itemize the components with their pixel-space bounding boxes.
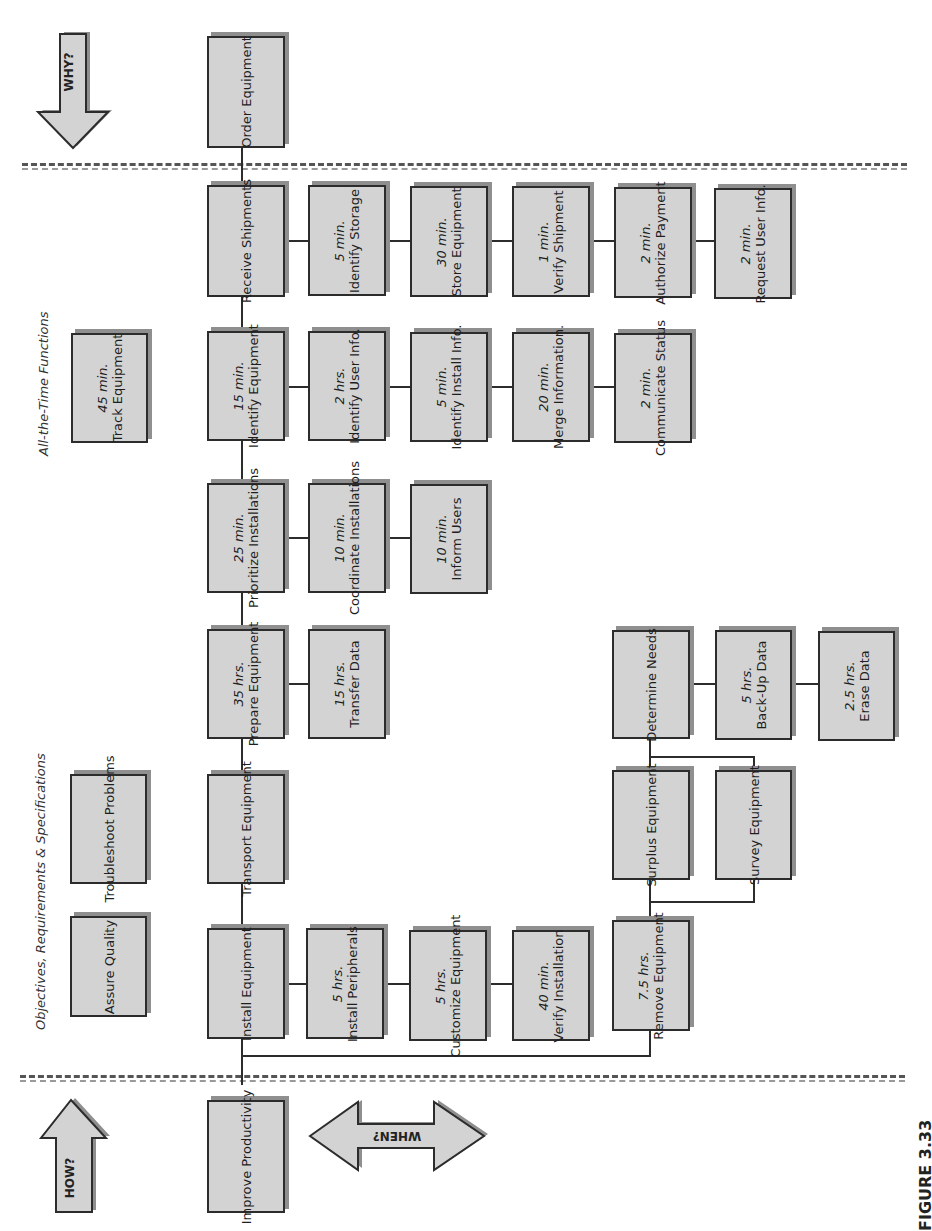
connector-survey-top [649, 756, 755, 758]
box-store-equipment[interactable]: 30 min.Store Equipment [410, 186, 488, 297]
box-time: 5 hrs. [739, 640, 754, 729]
box-transfer-data[interactable]: 15 hrs.Transfer Data [308, 629, 386, 739]
box-verify-installation[interactable]: 40 min.Verify Installation [512, 930, 590, 1041]
how-arrow-icon: HOW? [36, 1098, 126, 1218]
box-time: 2 min. [638, 320, 653, 456]
box-order-equipment[interactable]: Order Equipment [207, 36, 285, 148]
box-verify-shipment[interactable]: 1 min.Verify Shipment [512, 186, 590, 297]
box-label: Identify Storage [347, 188, 362, 292]
box-label: Verify Installation [551, 929, 566, 1042]
box-request-user-info[interactable]: 2 min.Request User Info. [714, 188, 792, 299]
box-transport-equipment[interactable]: Transport Equipment [207, 774, 285, 884]
box-label: Inform Users [449, 498, 464, 581]
box-label: Identify Equipment [246, 324, 261, 448]
box-identify-install-info[interactable]: 5 min.Identify Install Info. [410, 332, 488, 442]
box-troubleshoot-problems[interactable]: Troubleshoot Problems [70, 774, 147, 884]
box-erase-data[interactable]: 2.5 hrs.Erase Data [818, 631, 895, 741]
box-communicate-status[interactable]: 2 min.Communicate Status [614, 333, 692, 443]
box-label: Remove Equipment [651, 912, 666, 1039]
box-receive-shipments[interactable]: Receive Shipments [207, 185, 285, 297]
box-time: 45 min. [95, 334, 110, 443]
box-time: 2 hrs. [332, 328, 347, 443]
box-time: 2.5 hrs. [842, 650, 857, 721]
scope-line-top-shadow [22, 168, 907, 170]
box-remove-equipment[interactable]: 7.5 hrs.Remove Equipment [612, 920, 690, 1031]
box-time: 25 min. [231, 468, 246, 608]
box-determine-needs[interactable]: Determine Needs [612, 630, 690, 739]
box-time: 2 min. [738, 184, 753, 303]
box-identify-storage[interactable]: 5 min.Identify Storage [308, 185, 386, 296]
when-label: WHEN? [373, 1129, 422, 1143]
box-label: Transport Equipment [239, 761, 254, 897]
box-authorize-payment[interactable]: 2 min.Authorize Payment [614, 187, 692, 298]
box-time: 30 min. [434, 187, 449, 296]
box-improve-productivity[interactable]: Improve Productivity [207, 1100, 285, 1213]
note-all-the-time-functions: All-the-Time Functions [36, 312, 51, 457]
box-label: Prepare Equipment [246, 622, 261, 747]
box-install-peripherals[interactable]: 5 hrs.Install Peripherals [306, 928, 384, 1039]
box-time: 2 min. [638, 181, 653, 304]
box-track-equipment[interactable]: 45 min.Track Equipment [71, 333, 148, 443]
box-survey-equipment[interactable]: Survey Equipment [715, 770, 792, 880]
why-label: WHY? [62, 53, 76, 92]
box-merge-information[interactable]: 20 min.Merge Information. [512, 332, 590, 442]
box-label: Communicate Status [653, 320, 668, 456]
note-objectives-requirements: Objectives, Requirements & Specification… [33, 753, 48, 1030]
box-time: 1 min. [536, 190, 551, 293]
scope-line-top [22, 163, 907, 166]
box-label: Authorize Payment [653, 181, 668, 304]
box-label: Survey Equipment [746, 765, 761, 885]
box-label: Transfer Data [347, 640, 362, 727]
box-label: Identify User Info. [347, 328, 362, 443]
box-identify-equipment[interactable]: 15 min.Identify Equipment [207, 331, 285, 441]
box-time: 5 min. [434, 325, 449, 450]
how-label: HOW? [63, 1158, 77, 1198]
box-label: Track Equipment [110, 334, 125, 443]
figure-label: FIGURE 3.33 [916, 1120, 932, 1231]
box-time: 7.5 hrs. [636, 912, 651, 1039]
box-label: Erase Data [857, 650, 872, 721]
box-time: 40 min. [536, 929, 551, 1042]
box-label: Identify Install Info. [449, 325, 464, 450]
box-label: Order Equipment [239, 36, 254, 148]
box-time: 35 hrs. [231, 622, 246, 747]
box-identify-user-info[interactable]: 2 hrs.Identify User Info. [308, 331, 386, 441]
scope-line-bottom-shadow [20, 1080, 905, 1082]
box-time: 10 min. [332, 461, 347, 615]
box-assure-quality[interactable]: Assure Quality [70, 916, 147, 1017]
when-arrow-icon: WHEN? [300, 1096, 500, 1186]
box-coordinate-installations[interactable]: 10 min.Coordinate Installations [308, 483, 386, 593]
box-customize-equipment[interactable]: 5 hrs.Customize Equipment [409, 930, 487, 1041]
box-label: Customize Equipment [448, 914, 463, 1057]
box-prepare-equipment[interactable]: 35 hrs.Prepare Equipment [207, 629, 285, 739]
box-time: 5 hrs. [330, 926, 345, 1042]
box-label: Verify Shipment [551, 190, 566, 293]
box-label: Surplus Equipment [644, 763, 659, 886]
box-time: 15 hrs. [332, 640, 347, 727]
box-install-equipment[interactable]: Install Equipment [207, 928, 285, 1039]
box-label: Request User Info. [753, 184, 768, 303]
connector-prepare-row [285, 683, 310, 685]
box-prioritize-installations[interactable]: 25 min.Prioritize Installations [207, 483, 285, 593]
box-time: 20 min. [536, 325, 551, 449]
scope-line-bottom [20, 1075, 905, 1078]
box-inform-users[interactable]: 10 min.Inform Users [410, 484, 488, 594]
box-label: Coordinate Installations [347, 461, 362, 615]
connector-survey-bottom [649, 901, 755, 903]
box-time: 5 min. [332, 188, 347, 292]
why-arrow-icon: WHY? [40, 30, 130, 150]
box-label: Install Equipment [239, 927, 254, 1041]
box-label: Receive Shipments [239, 179, 254, 303]
box-time: 10 min. [434, 498, 449, 581]
box-time: 15 min. [231, 324, 246, 448]
box-surplus-equipment[interactable]: Surplus Equipment [612, 770, 690, 880]
box-time: 5 hrs. [433, 914, 448, 1057]
box-label: Install Peripherals [345, 926, 360, 1042]
box-label: Improve Productivity [239, 1089, 254, 1224]
box-label: Determine Needs [644, 628, 659, 742]
box-label: Store Equipment [449, 187, 464, 296]
box-label: Merge Information. [551, 325, 566, 449]
box-label: Assure Quality [101, 919, 116, 1013]
box-label: Back-Up Data [754, 640, 769, 729]
box-back-up-data[interactable]: 5 hrs.Back-Up Data [715, 630, 792, 740]
